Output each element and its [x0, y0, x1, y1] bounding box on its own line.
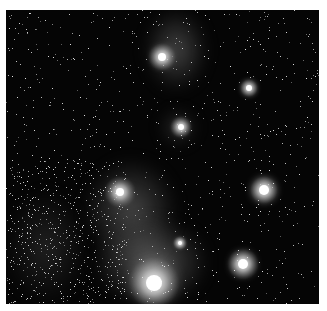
faint-star	[259, 20, 260, 21]
faint-star	[27, 227, 28, 228]
faint-star	[136, 36, 137, 37]
faint-star	[258, 41, 259, 42]
faint-star	[93, 229, 94, 230]
faint-star	[33, 251, 34, 252]
faint-star	[9, 289, 10, 290]
star-field-photo	[6, 10, 319, 304]
faint-star	[64, 180, 65, 181]
faint-star	[69, 226, 70, 227]
faint-star	[204, 56, 205, 57]
faint-star	[52, 300, 53, 301]
faint-star	[118, 166, 119, 167]
faint-star	[312, 61, 313, 62]
faint-star	[197, 115, 198, 116]
faint-star	[53, 259, 54, 260]
faint-star	[67, 163, 68, 164]
faint-star	[94, 146, 95, 147]
faint-star	[120, 255, 121, 256]
faint-star	[16, 114, 17, 115]
faint-star	[313, 201, 314, 202]
faint-star	[29, 13, 30, 14]
faint-star	[83, 294, 84, 295]
faint-star	[249, 286, 250, 287]
faint-star	[230, 196, 231, 197]
faint-star	[40, 68, 41, 69]
faint-star	[28, 49, 29, 50]
faint-star	[22, 229, 23, 230]
faint-star	[40, 244, 41, 245]
faint-star	[118, 283, 119, 284]
faint-star	[317, 70, 318, 71]
faint-star	[82, 227, 83, 228]
faint-star	[239, 137, 240, 138]
faint-star	[256, 108, 257, 109]
faint-star	[110, 266, 111, 267]
faint-star	[318, 75, 319, 76]
faint-star	[49, 268, 50, 269]
faint-star	[100, 82, 101, 83]
faint-star	[57, 271, 58, 272]
faint-star	[58, 204, 59, 205]
faint-star	[37, 226, 38, 227]
faint-star	[93, 117, 94, 118]
faint-star	[30, 298, 31, 299]
faint-star	[34, 188, 35, 189]
faint-star	[268, 38, 269, 39]
faint-star	[93, 21, 94, 22]
faint-star	[87, 238, 88, 239]
faint-star	[223, 182, 224, 183]
faint-star	[99, 119, 100, 120]
faint-star	[202, 208, 203, 209]
faint-star	[108, 277, 109, 278]
faint-star	[198, 294, 199, 295]
faint-star	[77, 90, 78, 91]
faint-star	[121, 293, 122, 294]
faint-star	[312, 205, 313, 206]
faint-star	[253, 114, 254, 115]
faint-star	[247, 221, 248, 222]
faint-star	[302, 137, 303, 138]
faint-star	[91, 240, 92, 241]
faint-star	[126, 298, 127, 299]
faint-star	[20, 260, 21, 261]
faint-star	[61, 155, 62, 156]
faint-star	[227, 298, 228, 299]
faint-star	[84, 262, 85, 263]
faint-star	[126, 68, 127, 69]
faint-star	[157, 102, 158, 103]
faint-star	[108, 232, 109, 233]
faint-star	[279, 211, 280, 212]
faint-star	[89, 170, 90, 171]
faint-star	[112, 281, 113, 282]
faint-star	[47, 246, 48, 247]
faint-star	[293, 64, 294, 65]
faint-star	[125, 174, 126, 175]
faint-star	[207, 95, 208, 96]
faint-star	[27, 276, 28, 277]
faint-star	[132, 31, 133, 32]
faint-star	[53, 247, 54, 248]
faint-star	[28, 171, 29, 172]
faint-star	[130, 73, 131, 74]
faint-star	[104, 242, 105, 243]
faint-star	[115, 295, 116, 296]
faint-star	[118, 208, 119, 209]
faint-star	[85, 161, 86, 162]
faint-star	[84, 282, 85, 283]
faint-star	[33, 100, 34, 101]
faint-star	[193, 106, 194, 107]
faint-star	[73, 263, 74, 264]
faint-star	[50, 102, 51, 103]
faint-star	[147, 17, 148, 18]
faint-star	[63, 57, 64, 58]
faint-star	[315, 76, 316, 77]
faint-star	[300, 106, 301, 107]
faint-star	[23, 170, 24, 171]
faint-star	[74, 59, 75, 60]
faint-star	[282, 143, 283, 144]
faint-star	[128, 239, 129, 240]
faint-star	[195, 10, 196, 11]
faint-star	[278, 128, 279, 129]
faint-star	[219, 219, 220, 220]
faint-star	[31, 186, 32, 187]
